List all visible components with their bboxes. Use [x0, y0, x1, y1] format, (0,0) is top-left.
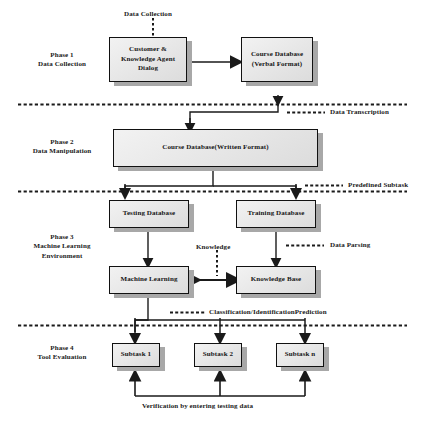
node-machine-learning[interactable]: Machine Learning	[109, 266, 189, 294]
edge-label-data-parsing: Data Parsing	[330, 241, 370, 249]
node-subtask-2[interactable]: Subtask 2	[194, 343, 242, 367]
node-subtask-n[interactable]: Subtask n	[276, 343, 324, 367]
edge-label-classification-identification-prediction: Classification/IdentificationPrediction	[209, 308, 327, 316]
edge-label-predefined-subtask: Predefined Subtask	[348, 181, 408, 189]
node-course-database-written[interactable]: Course Database(Written Format)	[113, 129, 318, 167]
phase-label-1: Phase 1 Data Collection	[12, 51, 112, 70]
node-customer-knowledge-agent-dialog[interactable]: Customer & Knowledge Agent Dialog	[109, 37, 187, 82]
node-testing-database[interactable]: Testing Database	[109, 200, 189, 228]
edge-label-knowledge: Knowledge	[196, 243, 230, 251]
edge-label-verification: Verification by entering testing data	[142, 402, 253, 410]
phase-label-3: Phase 3 Machine Learning Environment	[12, 233, 112, 261]
edge-label-data-transcription: Data Transcription	[330, 108, 389, 116]
edge-label-data-collection: Data Collection	[124, 10, 172, 18]
edge-verbal-to-written-path	[190, 104, 278, 128]
node-course-database-verbal[interactable]: Course Database (Verbal Format)	[241, 37, 313, 82]
phase-label-2: Phase 2 Data Manipulation	[12, 138, 112, 157]
node-training-database[interactable]: Training Database	[236, 200, 316, 228]
phase-label-4: Phase 4 Tool Evaluation	[12, 344, 112, 363]
diagram-canvas: Customer & Knowledge Agent Dialog Course…	[0, 0, 425, 421]
node-knowledge-base[interactable]: Knowledge Base	[236, 266, 316, 294]
node-subtask-1[interactable]: Subtask 1	[112, 343, 160, 367]
